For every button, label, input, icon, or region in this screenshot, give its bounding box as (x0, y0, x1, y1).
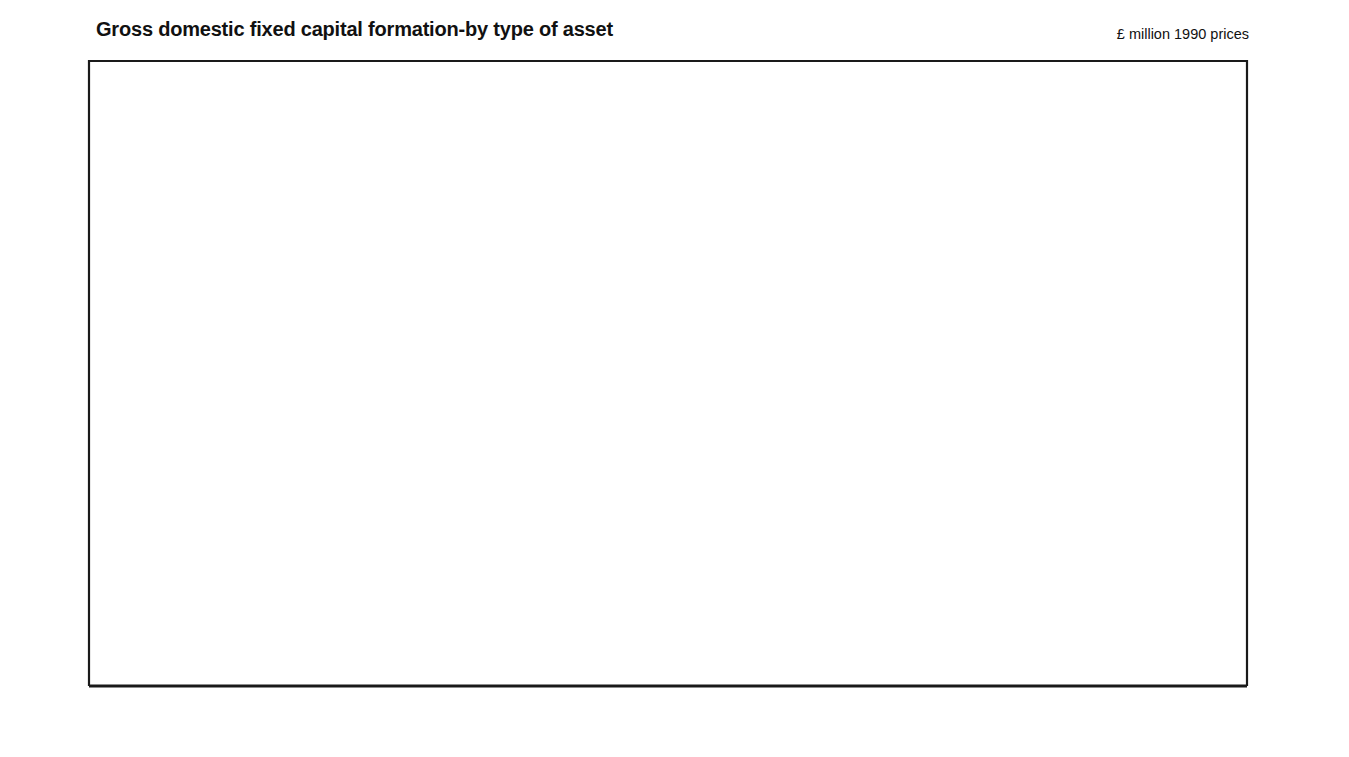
chart-root: Gross domestic fixed capital formation-b… (0, 0, 1349, 757)
plot-canvas (0, 0, 1349, 757)
plot-frame (89, 61, 1247, 686)
